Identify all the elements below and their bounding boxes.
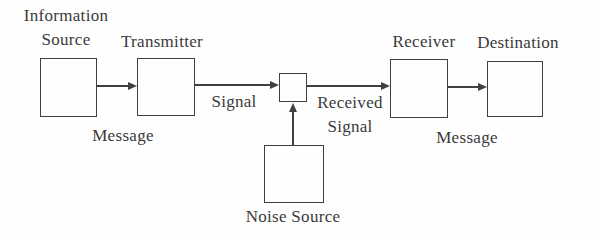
arrowhead-right-icon: [270, 81, 279, 89]
destination-label: Destination: [477, 31, 559, 54]
communication-system-diagram: Information Source Transmitter Receiver …: [0, 0, 598, 234]
message-label-right: Message: [436, 126, 498, 149]
message-label-left: Message: [92, 124, 154, 147]
information-source-label-line2: Source: [24, 28, 109, 52]
received-signal-label: Received Signal: [317, 91, 383, 139]
information-source-label-line1: Information: [24, 4, 109, 28]
arrow-shaft: [448, 86, 480, 88]
destination-box: [487, 61, 543, 117]
arrow-shaft: [307, 85, 383, 87]
receiver-label: Receiver: [393, 30, 456, 53]
information-source-box: [40, 58, 97, 117]
arrow-shaft: [195, 84, 272, 86]
arrowhead-right-icon: [478, 83, 487, 91]
received-signal-label-line2: Signal: [317, 115, 383, 139]
arrowhead-up-icon: [289, 103, 297, 112]
arrow-shaft: [97, 85, 130, 87]
arrow-shaft: [292, 110, 294, 145]
transmitter-label: Transmitter: [121, 30, 203, 53]
noise-source-box: [264, 145, 324, 203]
received-signal-label-line1: Received: [317, 91, 383, 115]
signal-label: Signal: [211, 90, 256, 113]
arrowhead-right-icon: [381, 82, 390, 90]
signal-noise-junction-box: [279, 73, 307, 102]
transmitter-box: [137, 58, 195, 116]
receiver-box: [390, 59, 448, 118]
information-source-label: Information Source: [24, 4, 109, 52]
noise-source-label: Noise Source: [246, 205, 341, 228]
arrowhead-right-icon: [128, 82, 137, 90]
